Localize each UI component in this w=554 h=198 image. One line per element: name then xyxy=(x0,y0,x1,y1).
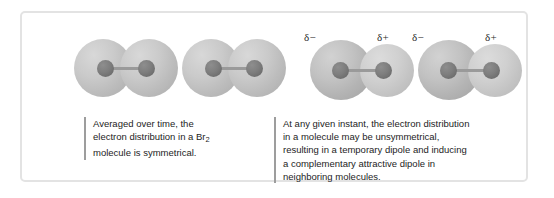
molecule-4-polarized xyxy=(418,41,522,99)
caption-right-line-5: neighboring molecules. xyxy=(283,170,533,183)
caption-right: At any given instant, the electron distr… xyxy=(274,117,533,183)
caption-right-line-1: At any given instant, the electron distr… xyxy=(283,117,533,130)
molecule-1-symmetric xyxy=(74,39,178,97)
partial-charge-label-molecule3-positive: δ+ xyxy=(377,31,389,43)
caption-right-line-3: resulting in a temporary dipole and indu… xyxy=(283,143,533,156)
bromine-atom-right xyxy=(483,62,500,79)
partial-charge-label-molecule3-negative: δ− xyxy=(304,31,316,43)
bromine-atom-right xyxy=(375,62,392,79)
molecule-3-polarized xyxy=(310,41,414,99)
caption-left-line-3: molecule is symmetrical. xyxy=(93,146,243,159)
caption-left-line-2-text: electron distribution in a Br xyxy=(93,131,205,142)
partial-charge-label-molecule4-negative: δ− xyxy=(412,31,424,43)
partial-charge-label-molecule4-positive: δ+ xyxy=(485,31,497,43)
caption-left: Averaged over time, the electron distrib… xyxy=(84,117,243,160)
dispersion-forces-figure: δ− δ+ δ− δ+ Averaged over time, the elec… xyxy=(0,0,554,198)
figure-frame: δ− δ+ δ− δ+ Averaged over time, the elec… xyxy=(20,11,528,182)
bromine-atom-right xyxy=(138,60,155,77)
bromine-atom-left xyxy=(97,60,114,77)
caption-right-line-4: a complementary attractive dipole in xyxy=(283,157,533,170)
bromine-atom-left xyxy=(440,62,457,79)
bromine-atom-right xyxy=(246,60,263,77)
caption-right-line-2: in a molecule may be unsymmetrical, xyxy=(283,130,533,143)
caption-left-line-1: Averaged over time, the xyxy=(93,117,243,130)
caption-left-line-2: electron distribution in a Br2 xyxy=(93,130,243,146)
bromine-atom-left xyxy=(332,62,349,79)
subscript-two: 2 xyxy=(205,135,209,144)
bromine-atom-left xyxy=(205,60,222,77)
molecule-2-symmetric xyxy=(182,39,286,97)
